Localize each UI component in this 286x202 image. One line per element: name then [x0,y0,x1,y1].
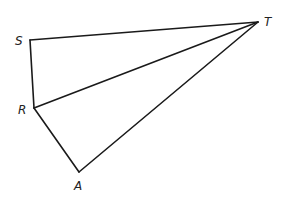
segment-at [79,22,258,172]
segment-st [30,22,258,40]
label-s: S [15,34,23,48]
label-r: R [18,103,26,117]
label-a: A [73,179,82,193]
segment-sr [30,40,34,108]
geometry-diagram: S T R A [0,0,286,202]
segment-rt [34,22,258,108]
label-t: T [264,15,273,29]
segment-ra [34,108,79,172]
